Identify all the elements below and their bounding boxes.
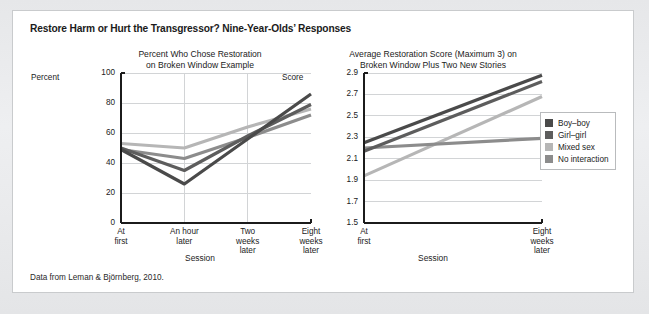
right-ytick-label: 2.9: [320, 68, 358, 77]
legend-item: Boy–boy: [545, 117, 609, 129]
right-ytick-label: 2.5: [320, 111, 358, 120]
figure-card: Restore Harm or Hurt the Transgressor? N…: [12, 10, 634, 293]
right-xtick-label: Atfirst: [334, 227, 394, 246]
right-ytick-label: 2.7: [320, 89, 358, 98]
right-ytick-label: 2.1: [320, 154, 358, 163]
chart-panel-right: Average Restoration Score (Maximum 3) on…: [318, 49, 548, 279]
legend-item-label: No interaction: [558, 155, 609, 164]
chart-legend: Boy–boyGirl–girlMixed sexNo interaction: [540, 112, 616, 170]
left-xtick-label: Atfirst: [91, 227, 151, 246]
legend-item: Girl–girl: [545, 129, 609, 141]
left-ytick-label: 0: [77, 218, 115, 227]
legend-swatch-icon: [545, 155, 553, 163]
chart-panel-left: Percent Who Chose Restoration on Broken …: [75, 49, 325, 279]
legend-swatch-icon: [545, 143, 553, 151]
left-xtick-line: first: [91, 237, 151, 247]
right-xtick-line: weeks: [512, 237, 572, 247]
chart-left-yaxis-label: Percent: [31, 73, 59, 82]
left-xtick-label: An hourlater: [154, 227, 214, 246]
left-xtick-line: later: [218, 246, 278, 256]
right-xtick-line: first: [334, 237, 394, 247]
legend-swatch-icon: [545, 119, 553, 127]
right-xtick-line: later: [512, 246, 572, 256]
right-ytick-label: 1.7: [320, 197, 358, 206]
left-xtick-line: Two: [218, 227, 278, 237]
right-xtick-line: At: [334, 227, 394, 237]
right-xtick-label: Eightweekslater: [512, 227, 572, 256]
right-ytick-label: 1.5: [320, 218, 358, 227]
legend-item: Mixed sex: [545, 141, 609, 153]
figure-title: Restore Harm or Hurt the Transgressor? N…: [30, 23, 351, 34]
left-ytick-label: 20: [77, 188, 115, 197]
left-xtick-line: weeks: [218, 237, 278, 247]
right-ytick-label: 2.3: [320, 132, 358, 141]
left-xtick-line: later: [154, 237, 214, 247]
left-xtick-label: Twoweekslater: [218, 227, 278, 256]
left-ytick-label: 60: [77, 128, 115, 137]
left-ytick-label: 100: [77, 68, 115, 77]
left-xtick-line: At: [91, 227, 151, 237]
legend-swatch-icon: [545, 131, 553, 139]
left-ytick-label: 40: [77, 158, 115, 167]
legend-item-label: Mixed sex: [558, 143, 595, 152]
left-xtick-line: An hour: [154, 227, 214, 237]
left-ytick-label: 80: [77, 98, 115, 107]
legend-item: No interaction: [545, 153, 609, 165]
chart-right-yaxis-label: Score: [282, 73, 303, 82]
legend-item-label: Girl–girl: [558, 131, 586, 140]
right-ytick-label: 1.9: [320, 175, 358, 184]
source-note: Data from Leman & Björnberg, 2010.: [30, 273, 164, 282]
right-xtick-line: Eight: [512, 227, 572, 237]
legend-item-label: Boy–boy: [558, 119, 590, 128]
